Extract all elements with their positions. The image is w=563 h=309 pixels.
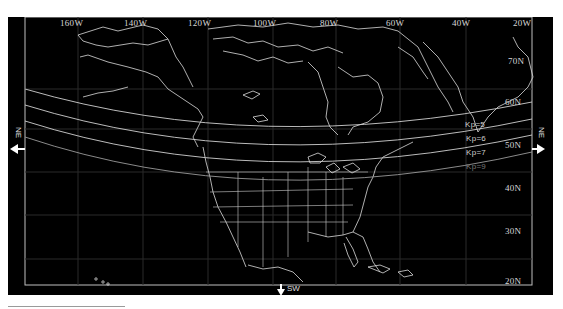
longitude-label: 40W <box>452 19 470 28</box>
arrow-down-icon <box>277 289 285 296</box>
map-frame <box>25 17 532 285</box>
arrow-left-stem <box>17 148 25 150</box>
kp-label: Kp=7 <box>466 148 486 157</box>
direction-label-bottom: SW <box>287 285 300 293</box>
longitude-label: 160W <box>60 19 83 28</box>
arrow-right-stem <box>532 148 538 150</box>
latitude-label: 30N <box>505 227 521 236</box>
arrow-right-icon <box>537 144 545 154</box>
kp-lines <box>25 89 532 180</box>
latitude-label: 70N <box>508 57 524 66</box>
longitude-label: 60W <box>386 19 404 28</box>
kp-label: Kp=9 <box>466 162 486 171</box>
graticule <box>25 17 532 285</box>
aurora-map-panel: 160W 140W 120W 100W 80W 60W 40W 20W 70N … <box>8 17 553 295</box>
coastlines <box>78 23 533 285</box>
divider <box>8 306 125 307</box>
kp-label: Kp=5 <box>465 120 485 129</box>
direction-label-right: NE <box>537 127 545 138</box>
latitude-label: 50N <box>505 141 521 150</box>
latitude-label: 20N <box>505 277 521 286</box>
kp-label: Kp=6 <box>466 134 486 143</box>
longitude-label: 20W <box>513 19 531 28</box>
longitude-label: 100W <box>253 19 276 28</box>
longitude-label: 80W <box>320 19 338 28</box>
longitude-label: 140W <box>124 19 147 28</box>
longitude-label: 120W <box>188 19 211 28</box>
state-borders <box>206 167 368 267</box>
latitude-label: 40N <box>505 184 521 193</box>
direction-label-left: NE <box>14 127 22 138</box>
latitude-label: 60N <box>505 98 521 107</box>
